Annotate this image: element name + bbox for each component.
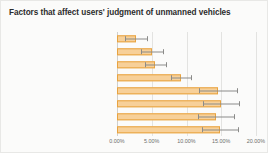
chart-figure: Factors that affect users' judgment of u… [0,0,268,153]
error-bar-cap [147,36,148,42]
x-tick-label: 5.00% [144,138,159,144]
chart-row: large in size [117,32,256,45]
error-bar-cap [199,88,200,94]
x-axis-tick-labels: 0.00%5.00%10.00%15.00%20.00% [0,138,268,150]
error-bar-cap [125,36,126,42]
error-bar-cap [234,114,235,120]
error-bar [199,90,237,91]
x-tick-label: 20.00% [247,138,265,144]
chart-row: whether there is a message prompt [117,71,256,84]
chart-row: speed [117,123,256,136]
chart-row: headlight [117,97,256,110]
error-bar-cap [238,127,239,133]
x-tick-label: 10.00% [177,138,195,144]
error-bar-cap [203,101,204,107]
chart-row: the next driving state [117,84,256,97]
x-tick-label: 0.00% [109,138,124,144]
error-bar-cap [198,114,199,120]
error-bar-cap [166,62,167,68]
x-tick-label: 15.00% [212,138,230,144]
error-bar-cap [239,101,240,107]
chart-row: acceleration [117,110,256,123]
error-bar [141,51,163,52]
gridline [256,32,257,136]
error-bar-cap [171,75,172,81]
error-bar-cap [202,127,203,133]
plot-wrapper: large in sizedirectiondistancewhether th… [0,30,268,153]
error-bar-cap [141,49,142,55]
error-bar [202,129,238,130]
error-bar-cap [145,62,146,68]
error-bar [171,77,190,78]
error-bar [203,103,239,104]
chart-row: distance [117,58,256,71]
error-bar [198,116,234,117]
error-bar [145,64,166,65]
error-bar-cap [191,75,192,81]
plot-area: large in sizedirectiondistancewhether th… [117,32,256,136]
chart-row: direction [117,45,256,58]
error-bar-cap [237,88,238,94]
chart-title: Factors that affect users' judgment of u… [9,8,259,17]
error-bar-cap [163,49,164,55]
error-bar [125,38,147,39]
